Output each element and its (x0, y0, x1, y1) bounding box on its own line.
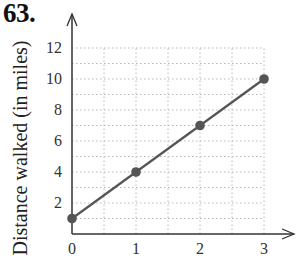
tick-labels: 012324681012 (46, 39, 268, 257)
data-point-marker (195, 121, 205, 131)
data-point-marker (131, 167, 141, 177)
y-tick-label: 2 (54, 194, 62, 211)
x-tick-label: 1 (132, 240, 140, 257)
y-tick-label: 10 (46, 70, 62, 87)
data-point-marker (259, 74, 269, 84)
x-tick-label: 0 (68, 240, 76, 257)
y-tick-label: 6 (54, 132, 62, 149)
x-tick-label: 3 (260, 240, 268, 257)
grid-lines (72, 48, 264, 234)
data-point-marker (67, 214, 77, 224)
y-tick-label: 8 (54, 101, 62, 118)
y-tick-label: 12 (46, 39, 62, 56)
x-tick-label: 2 (196, 240, 204, 257)
y-tick-label: 4 (54, 163, 62, 180)
line-chart: 012324681012 (0, 0, 306, 272)
